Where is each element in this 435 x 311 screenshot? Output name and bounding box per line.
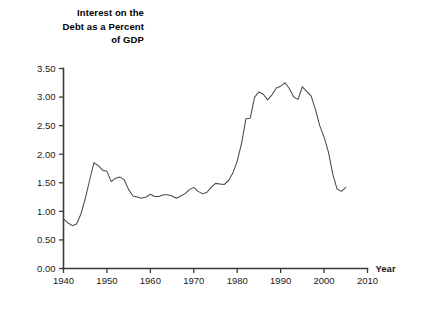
y-tick-label: 0.00 [37,263,56,274]
y-tick-label: 1.50 [37,177,56,188]
x-tick-label: 1980 [227,275,248,286]
x-tick-label: 1960 [140,275,161,286]
x-axis: 19401950196019701980199020002010 [53,269,378,286]
data-line [64,83,346,226]
x-axis-label: Year [376,263,396,274]
x-tick-label: 1950 [96,275,117,286]
x-tick-label: 2000 [314,275,335,286]
y-tick-label: 1.00 [37,206,56,217]
data-series-group [64,83,346,226]
x-tick-label: 1970 [183,275,204,286]
y-tick-label: 0.50 [37,234,56,245]
chart-figure: Interest on the Debt as a Percent of GDP… [0,0,435,311]
x-tick-label: 2010 [357,275,378,286]
y-tick-label: 2.50 [37,120,56,131]
x-tick-label: 1940 [53,275,74,286]
x-tick-label: 1990 [270,275,291,286]
y-tick-label: 2.00 [37,149,56,160]
y-tick-label: 3.50 [37,63,56,74]
axis-name-group: Year [376,263,396,274]
y-tick-label: 3.00 [37,91,56,102]
y-axis: 0.000.501.001.502.002.503.003.50 [37,63,64,274]
line-chart-plot: 0.000.501.001.502.002.503.003.50 1940195… [0,0,435,311]
